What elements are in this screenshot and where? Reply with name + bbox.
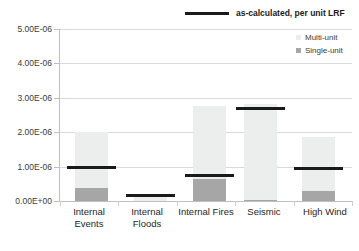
legend-label-multi-unit: Multi-unit bbox=[305, 33, 337, 42]
y-tick-label-4: 4.00E-06 bbox=[4, 59, 52, 68]
x-label-high-wind: High Wind bbox=[292, 206, 358, 218]
line-marker-icon bbox=[185, 12, 229, 15]
y-tick-1e-06 bbox=[54, 167, 60, 168]
x-axis-line bbox=[59, 201, 352, 202]
x-label-internal-fires: Internal Fires bbox=[177, 206, 235, 218]
chart-container: as-calculated, per unit LRF 5.00E-06 4.0… bbox=[0, 0, 359, 251]
bar-multi-unit-internal-floods bbox=[134, 197, 167, 201]
y-tick-label-2: 2.00E-06 bbox=[4, 128, 52, 137]
y-tick-label-1: 1.00E-06 bbox=[4, 163, 52, 172]
gridline-5e-06 bbox=[60, 29, 352, 30]
bar-single-unit-internal-events bbox=[75, 188, 108, 201]
y-tick-label-5: 5.00E-06 bbox=[4, 25, 52, 34]
y-tick-5e-06 bbox=[54, 29, 60, 30]
as-calculated-marker-seismic bbox=[236, 107, 285, 110]
y-tick-2e-06 bbox=[54, 132, 60, 133]
legend-as-calculated-label: as-calculated, per unit LRF bbox=[236, 8, 345, 18]
y-tick-label-0: 0.00E+00 bbox=[4, 197, 52, 206]
bar-multi-unit-seismic bbox=[244, 104, 277, 201]
legend-swatch-multi-unit-icon bbox=[296, 35, 301, 40]
as-calculated-marker-high-wind bbox=[294, 167, 343, 170]
x-label-seismic: Seismic bbox=[235, 206, 293, 218]
bar-single-unit-high-wind bbox=[302, 191, 335, 201]
as-calculated-marker-internal-floods bbox=[126, 194, 175, 197]
legend-entry-single-unit: Single-unit bbox=[296, 46, 343, 55]
as-calculated-marker-internal-events bbox=[67, 166, 116, 169]
gridline-3e-06 bbox=[60, 98, 352, 99]
bar-single-unit-internal-fires bbox=[193, 179, 226, 201]
as-calculated-marker-internal-fires bbox=[185, 174, 234, 177]
y-axis-line bbox=[59, 29, 60, 202]
legend-label-single-unit: Single-unit bbox=[305, 46, 343, 55]
legend-swatch-single-unit-icon bbox=[296, 48, 301, 53]
y-tick-label-3: 3.00E-06 bbox=[4, 94, 52, 103]
x-label-internal-events: Internal Events bbox=[60, 206, 118, 230]
legend-series: Multi-unit Single-unit bbox=[296, 33, 343, 55]
y-tick-3e-06 bbox=[54, 98, 60, 99]
gridline-4e-06 bbox=[60, 63, 352, 64]
y-tick-4e-06 bbox=[54, 63, 60, 64]
bar-single-unit-seismic bbox=[244, 200, 277, 201]
legend-entry-multi-unit: Multi-unit bbox=[296, 33, 343, 42]
legend-as-calculated: as-calculated, per unit LRF bbox=[185, 6, 345, 20]
x-label-internal-floods: Internal Floods bbox=[118, 206, 176, 230]
